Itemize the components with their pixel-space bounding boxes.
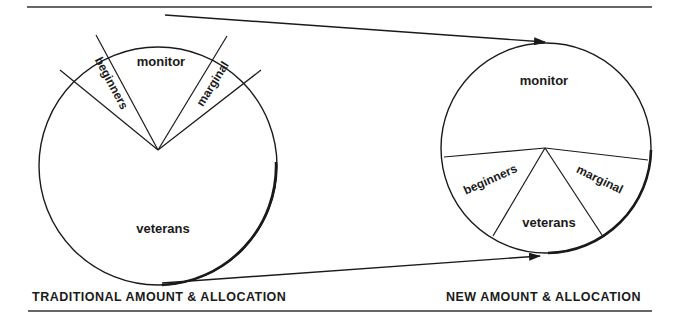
- top-arrow: [165, 15, 545, 42]
- allocation-diagram: monitor beginners marginal veterans moni…: [0, 0, 684, 328]
- right-label-monitor: monitor: [520, 73, 568, 88]
- left-caption: TRADITIONAL AMOUNT & ALLOCATION: [32, 290, 286, 304]
- left-label-veterans: veterans: [136, 221, 189, 236]
- right-pie: monitor beginners marginal veterans: [441, 43, 651, 253]
- right-label-veterans: veterans: [522, 215, 575, 230]
- left-label-monitor: monitor: [137, 54, 185, 69]
- right-caption: NEW AMOUNT & ALLOCATION: [446, 290, 641, 304]
- left-pie: monitor beginners marginal veterans: [39, 35, 277, 285]
